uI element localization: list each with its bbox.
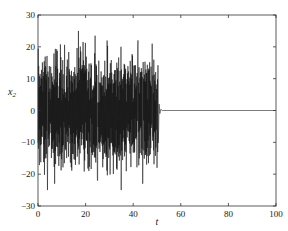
x-tick-label: 100 [269, 209, 283, 219]
x-tick-labels: 020406080100 [36, 209, 284, 219]
y-tick-label: −10 [21, 137, 36, 147]
series-line-x2 [38, 31, 276, 190]
y-tick-label: 0 [31, 106, 36, 116]
x-tick-label: 40 [129, 209, 139, 219]
y-tick-label: 30 [26, 10, 36, 20]
y-tick-label: −20 [21, 169, 36, 179]
y-tick-label: −30 [21, 201, 36, 211]
x-tick-label: 80 [224, 209, 234, 219]
y-axis-label-subscript: 2 [12, 91, 16, 99]
x-tick-label: 20 [81, 209, 91, 219]
x-tick-label: 60 [176, 209, 186, 219]
line-chart: 020406080100 −30−20−100102030 t x2 [0, 0, 288, 231]
y-axis-label: x2 [7, 86, 16, 99]
y-tick-label: 20 [26, 42, 36, 52]
plot-area [38, 31, 276, 190]
x-tick-label: 0 [36, 209, 41, 219]
y-tick-labels: −30−20−100102030 [21, 10, 36, 211]
x-axis-label: t [156, 216, 159, 227]
y-tick-label: 10 [26, 74, 36, 84]
